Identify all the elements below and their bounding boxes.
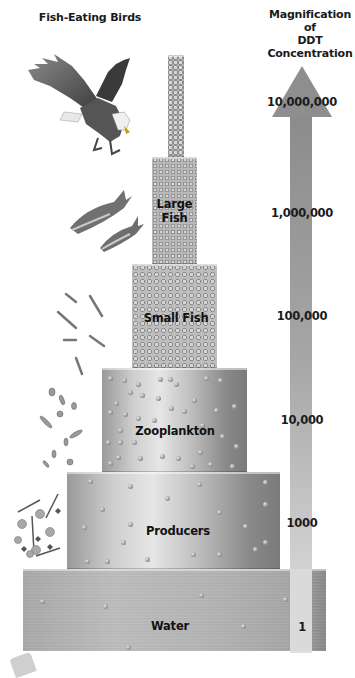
magnification-large-fish: 1,000,000 xyxy=(262,206,342,220)
water-label: Water xyxy=(140,619,200,633)
magnification-title-line1: Magnification of xyxy=(262,8,355,34)
large-fish-label-line2: Fish xyxy=(152,211,197,225)
birds-title: Fish-Eating Birds xyxy=(30,11,150,24)
magnification-small-fish: 100,000 xyxy=(262,309,342,323)
large-fish-label: Large Fish xyxy=(152,197,197,225)
water-level xyxy=(23,569,326,651)
large-fish-label-line1: Large xyxy=(152,197,197,211)
magnification-title-line2: DDT Concentration xyxy=(262,34,355,60)
arrow-shaft-over-water xyxy=(290,569,312,651)
small-fish-label: Small Fish xyxy=(140,311,212,325)
producers-label: Producers xyxy=(138,524,218,538)
magnification-arrow xyxy=(271,65,333,655)
producers-level xyxy=(67,472,280,569)
zooplankton-label: Zooplankton xyxy=(130,424,220,438)
small-fish-icon xyxy=(50,288,110,378)
large-fish-icon xyxy=(66,186,146,256)
up-arrow-icon xyxy=(271,65,333,655)
birds-level xyxy=(168,55,184,157)
magnification-water: 1 xyxy=(262,620,342,634)
magnification-producers: 1000 xyxy=(262,516,342,530)
page-corner-decoration xyxy=(9,652,37,678)
magnification-birds: 10,000,000 xyxy=(262,95,342,109)
zooplankton-level xyxy=(102,368,247,472)
magnification-zooplankton: 10,000 xyxy=(262,413,342,427)
zooplankton-icon xyxy=(36,378,96,468)
eagle-icon xyxy=(20,50,140,160)
magnification-title: Magnification of DDT Concentration xyxy=(262,8,355,60)
phytoplankton-icon xyxy=(14,480,70,560)
